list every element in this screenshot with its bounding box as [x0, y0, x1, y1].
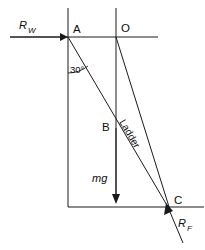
- ladder-diagram-canvas: R W A O 30° B Ladder mg C R F: [0, 0, 205, 250]
- label-reaction-floor: R: [178, 217, 186, 229]
- label-ladder: Ladder: [117, 117, 143, 150]
- label-point-a: A: [73, 23, 81, 35]
- label-point-o: O: [121, 22, 130, 34]
- label-angle-30: 30°: [70, 64, 85, 75]
- label-point-c: C: [174, 194, 182, 206]
- label-reaction-wall-subscript: W: [28, 26, 37, 35]
- rw-arrowhead-icon: [60, 33, 68, 41]
- ladder-diagram: R W A O 30° B Ladder mg C R F: [0, 0, 205, 250]
- mg-arrowhead-icon: [112, 194, 120, 204]
- label-reaction-floor-subscript: F: [187, 224, 193, 233]
- label-reaction-wall: R: [19, 19, 27, 31]
- label-weight-mg: mg: [92, 172, 108, 184]
- label-point-b: B: [102, 121, 110, 133]
